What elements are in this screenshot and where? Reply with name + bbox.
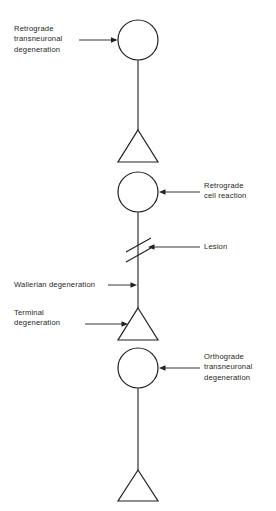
neuron-1-soma-circle — [118, 20, 158, 60]
neuron-3-terminal-triangle — [118, 470, 158, 501]
arrowhead-retrograde-cell-reaction — [159, 189, 166, 195]
label-retrograde-cell-reaction: Retrograde cell reaction — [204, 181, 274, 202]
arrowhead-wallerian — [131, 282, 138, 288]
label-wallerian-degeneration: Wallerian degeneration — [14, 280, 110, 290]
arrowhead-orthograde-transneuronal — [159, 365, 166, 371]
arrowhead-retrograde-transneuronal — [111, 37, 118, 43]
label-retrograde-transneuronal-degeneration: Retrograde transneuronal degeneration — [14, 24, 82, 55]
neuron-2-soma-circle — [118, 172, 158, 212]
label-lesion: Lesion — [204, 242, 274, 252]
neuron-3-soma-circle — [118, 348, 158, 388]
neuron-1-terminal-triangle — [118, 130, 158, 162]
neuron-degeneration-figure: Retrograde transneuronal degeneration Re… — [0, 0, 276, 511]
label-orthograde-transneuronal-degeneration: Orthograde transneuronal degeneration — [204, 352, 276, 383]
diagram-canvas — [0, 0, 276, 511]
label-terminal-degeneration: Terminal degeneration — [14, 308, 86, 329]
